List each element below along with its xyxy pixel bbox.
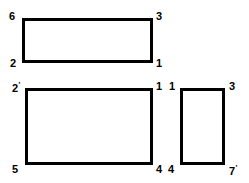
vertex-label-3-right-rect-top-right: 3: [229, 81, 235, 92]
vertex-label-4-mid-rect-bottom-right: 4: [156, 164, 162, 175]
vertex-label-2-prime: 2': [12, 81, 20, 94]
vertex-label-1-right-rect-top-left: 1: [169, 81, 175, 92]
vertex-label-4-right-rect-bottom-left: 4: [168, 164, 174, 175]
vertex-label-3-top-right: 3: [156, 11, 162, 22]
vertex-label-5: 5: [12, 164, 18, 175]
prime-mark: ': [18, 80, 20, 89]
vertex-label-7-prime: 7': [229, 164, 237, 177]
diagram-canvas: 6 3 2 1 2' 1 1 3 5 4 4 7': [0, 0, 249, 183]
vertex-label-2-top-rect-bottom-left: 2: [10, 58, 16, 69]
vertex-label-6: 6: [9, 11, 15, 22]
rectangle-bottom-right: [180, 88, 225, 165]
rectangle-bottom-left: [25, 88, 153, 165]
vertex-label-1-mid-rect-top-right: 1: [156, 81, 162, 92]
vertex-label-1-top-rect-bottom-right: 1: [156, 58, 162, 69]
rectangle-top: [22, 18, 153, 63]
prime-mark: ': [235, 163, 237, 172]
